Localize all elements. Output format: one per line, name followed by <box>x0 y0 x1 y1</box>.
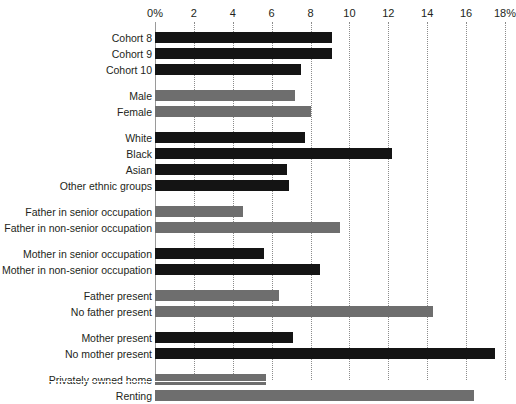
bar <box>155 148 392 159</box>
bar <box>155 180 289 191</box>
bar-row: Renting <box>0 388 514 404</box>
bar <box>155 222 340 233</box>
bar-row: Cohort 10 <box>0 62 514 78</box>
category-label: Father in senior occupation <box>25 204 152 220</box>
bar-row: Cohort 8 <box>0 30 514 46</box>
bar-row: Mother in non-senior occupation <box>0 262 514 278</box>
bar <box>155 332 293 343</box>
bar-row: Privately owned home <box>0 372 514 388</box>
bar-row: Cohort 9 <box>0 46 514 62</box>
bar-row: No mother present <box>0 346 514 362</box>
category-label: Female <box>117 104 152 120</box>
category-label: Mother present <box>81 330 152 346</box>
bar-row: Male <box>0 88 514 104</box>
bar <box>155 206 243 217</box>
bar-row: Female <box>0 104 514 120</box>
bar-row: Mother present <box>0 330 514 346</box>
category-label: Asian <box>126 162 152 178</box>
bar <box>155 132 305 143</box>
bar <box>155 90 295 101</box>
bar-row: Black <box>0 146 514 162</box>
bar-row: Mother in senior occupation <box>0 246 514 262</box>
category-label: Black <box>126 146 152 162</box>
bar-row: White <box>0 130 514 146</box>
bar <box>155 32 332 43</box>
bar-row: Asian <box>0 162 514 178</box>
category-label: Other ethnic groups <box>60 178 152 194</box>
category-label: Mother in non-senior occupation <box>2 262 152 278</box>
category-label: Father present <box>84 288 152 304</box>
bar <box>155 248 264 259</box>
bar <box>155 306 433 317</box>
bar-row: Father in non-senior occupation <box>0 220 514 236</box>
bar-row: Father present <box>0 288 514 304</box>
bar <box>155 264 320 275</box>
bar <box>155 374 266 385</box>
category-label: Father in non-senior occupation <box>4 220 152 236</box>
category-label: Renting <box>116 388 152 404</box>
bar <box>155 48 332 59</box>
chart-bottom-edge <box>0 381 514 382</box>
bar <box>155 64 301 75</box>
category-label: No mother present <box>65 346 152 362</box>
bar <box>155 348 495 359</box>
category-label: Cohort 8 <box>112 30 152 46</box>
bar <box>155 106 311 117</box>
bar <box>155 290 279 301</box>
bar-row: No father present <box>0 304 514 320</box>
category-label: Male <box>129 88 152 104</box>
category-label: No father present <box>71 304 152 320</box>
bar-row: Other ethnic groups <box>0 178 514 194</box>
category-label: Privately owned home <box>49 372 152 388</box>
category-label: Cohort 10 <box>106 62 152 78</box>
category-label: Cohort 9 <box>112 46 152 62</box>
bar <box>155 390 474 401</box>
category-label: Mother in senior occupation <box>23 246 152 262</box>
bar-row: Father in senior occupation <box>0 204 514 220</box>
bar <box>155 164 287 175</box>
category-label: White <box>125 130 152 146</box>
